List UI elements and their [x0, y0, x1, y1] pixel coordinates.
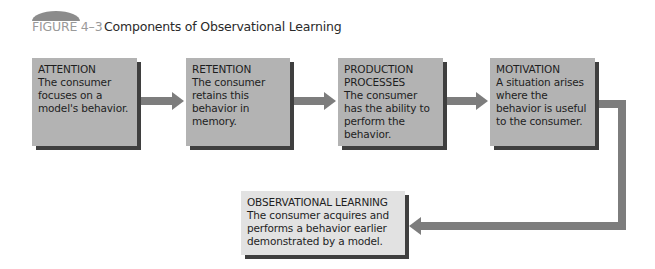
- step-heading: RETENTION: [192, 63, 284, 76]
- step-text: The consumer focuses on a model's behavi…: [38, 76, 131, 115]
- connector-horizontal-bottom: [420, 222, 626, 230]
- step-text: The consumer retains this behavior in me…: [192, 76, 284, 128]
- figure-label: FIGURE 4–3: [32, 19, 102, 34]
- arrow-shaft: [447, 97, 478, 105]
- arrow-shaft: [294, 97, 326, 105]
- step-heading: ATTENTION: [38, 63, 131, 76]
- arrow-shaft: [141, 97, 174, 105]
- step-retention: RETENTION The consumer retains this beha…: [186, 58, 290, 146]
- arrow-right-icon: [172, 92, 184, 110]
- step-attention: ATTENTION The consumer focuses on a mode…: [32, 58, 137, 146]
- step-heading: MOTIVATION: [496, 63, 589, 76]
- outcome-heading: OBSERVATIONAL LEARNING: [247, 196, 399, 209]
- arrow-right-icon: [324, 92, 336, 110]
- arrow-right-icon: [476, 92, 488, 110]
- step-text: The consumer has the ability to perform …: [344, 89, 437, 141]
- figure-title: Components of Observational Learning: [104, 19, 341, 34]
- step-text: A situation arises where the behavior is…: [496, 76, 589, 128]
- step-heading: PRODUCTION PROCESSES: [344, 63, 437, 89]
- outcome-text: The consumer acquires and performs a beh…: [247, 209, 399, 248]
- arrow-left-icon: [409, 217, 421, 235]
- step-production-processes: PRODUCTION PROCESSES The consumer has th…: [338, 58, 443, 146]
- step-motivation: MOTIVATION A situation arises where the …: [490, 58, 595, 146]
- outcome-observational-learning: OBSERVATIONAL LEARNING The consumer acqu…: [241, 191, 405, 255]
- connector-vertical: [618, 100, 626, 230]
